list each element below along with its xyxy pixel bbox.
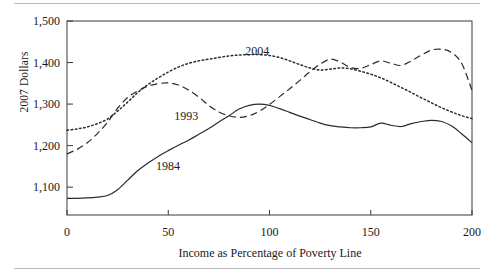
x-tick-label: 100	[250, 226, 290, 238]
series-annotation-1984: 1984	[156, 160, 180, 172]
y-axis-title: 2007 Dollars	[18, 22, 30, 142]
y-tick-label: 1,500	[14, 15, 60, 27]
series-line-1984	[67, 104, 472, 198]
series-annotation-1993: 1993	[174, 110, 198, 122]
x-tick-label: 50	[148, 226, 188, 238]
x-axis-title: Income as Percentage of Poverty Line	[67, 246, 473, 261]
y-tick-label: 1,400	[14, 57, 60, 69]
data-series	[67, 49, 472, 198]
y-tick-label: 1,200	[14, 140, 60, 152]
plot-frame	[67, 21, 472, 215]
tick-marks	[67, 21, 472, 215]
x-tick-label: 150	[351, 226, 391, 238]
series-line-2004	[67, 55, 472, 131]
series-annotation-2004: 2004	[245, 45, 269, 57]
x-tick-label: 200	[452, 226, 492, 238]
x-tick-label: 0	[47, 226, 87, 238]
axes	[67, 21, 472, 215]
figure-container: 2007 Dollars Income as Percentage of Pov…	[0, 0, 494, 278]
y-tick-label: 1,300	[14, 98, 60, 110]
y-tick-label: 1,100	[14, 181, 60, 193]
